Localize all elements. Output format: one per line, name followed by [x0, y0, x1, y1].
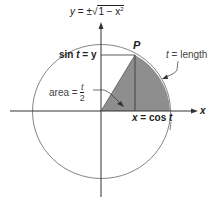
sin-rhs: = y: [80, 49, 97, 60]
x-axis-arrow-icon: [191, 109, 198, 114]
cos-tick: [170, 122, 171, 130]
length-leader-arrow-icon: [162, 75, 168, 80]
unit-circle-diagram: [0, 0, 224, 207]
area-label: area = t 2: [49, 83, 85, 103]
radicand-text: 1 − x: [98, 6, 120, 17]
radicand: 1 − x2: [97, 5, 123, 17]
cos-text: = cos: [138, 112, 169, 123]
title-eq: = ±: [75, 6, 92, 17]
title-equation: y = ±√1 − x2: [70, 6, 124, 17]
cos-label: x = cos t: [132, 113, 172, 123]
area-text: area =: [49, 88, 78, 98]
length-text: = length: [169, 49, 208, 60]
cos-t: t: [169, 112, 172, 123]
length-leader-line: [166, 61, 178, 77]
length-label: t = length: [166, 50, 207, 60]
y-axis-arrow-icon: [99, 22, 104, 29]
area-denominator: 2: [80, 93, 85, 103]
sin-text: sin: [59, 49, 76, 60]
exponent: 2: [120, 6, 123, 12]
area-numerator: t: [80, 83, 85, 93]
point-p-label: P: [133, 40, 140, 51]
shaded-sector: [101, 55, 170, 111]
sin-label: sin t = y: [59, 50, 97, 60]
x-axis-label: x: [200, 106, 206, 116]
area-fraction: t 2: [80, 83, 85, 103]
